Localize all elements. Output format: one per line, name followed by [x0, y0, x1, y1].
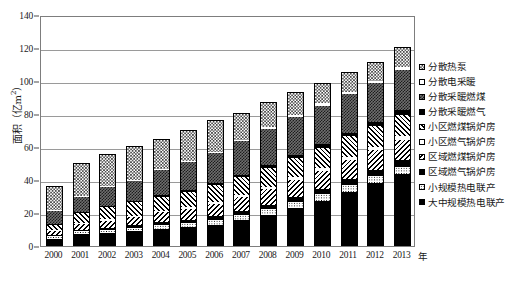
bar-segment-分散采暖燃煤	[341, 94, 358, 132]
bar-segment-区域燃煤锅炉房	[99, 221, 116, 228]
legend-swatch-icon	[419, 154, 425, 160]
bar-segment-大中规模热电联产	[153, 229, 170, 246]
y-axis-tick-mark	[34, 148, 39, 149]
bar-segment-分散热泵	[233, 113, 250, 140]
legend-label: 分散热泵	[428, 62, 466, 72]
legend-item-2: 分散采暖燃煤	[419, 89, 517, 104]
bar-segment-区域燃气锅炉房	[46, 235, 63, 236]
bar-segment-小区燃气锅炉房	[180, 207, 197, 209]
bar-segment-分散电采暖	[99, 186, 116, 187]
bar-segment-分散采暖燃煤	[207, 153, 224, 183]
bar-segment-大中规模热电联产	[287, 208, 304, 246]
legend-item-6: 区域燃煤锅炉房	[419, 150, 517, 165]
bar-segment-区域燃煤锅炉房	[180, 209, 197, 220]
bar-segment-分散采暖燃气	[314, 144, 331, 147]
bar-segment-区域燃气锅炉房	[367, 170, 384, 176]
bar-segment-小规模热电联产	[207, 220, 224, 225]
bar-segment-大中规模热电联产	[126, 231, 143, 246]
bar-segment-分散采暖燃气	[46, 224, 63, 225]
bar-segment-区域燃煤锅炉房	[153, 212, 170, 222]
y-axis-title-main: 面积（亿m	[12, 95, 23, 144]
legend-item-5: 小区燃气锅炉房	[419, 134, 517, 149]
x-axis-unit-label: 年	[418, 249, 428, 263]
bar-2002	[99, 154, 116, 246]
bar-segment-分散采暖燃气	[367, 122, 384, 126]
bar-segment-分散热泵	[367, 62, 384, 80]
bar-2003	[126, 146, 143, 246]
bar-segment-分散热泵	[207, 120, 224, 152]
bar-segment-区域燃气锅炉房	[126, 225, 143, 227]
bar-2000	[46, 186, 63, 246]
bar-segment-小规模热电联产	[126, 228, 143, 232]
bar-segment-区域燃气锅炉房	[394, 160, 411, 167]
bar-segment-大中规模热电联产	[99, 233, 116, 246]
bar-segment-分散采暖燃煤	[99, 187, 116, 206]
bar-segment-小区燃气锅炉房	[207, 202, 224, 204]
bar-2006	[207, 120, 224, 246]
legend-label: 区域燃煤锅炉房	[428, 152, 495, 162]
bar-segment-区域燃气锅炉房	[153, 222, 170, 225]
bar-segment-区域燃气锅炉房	[73, 230, 90, 232]
x-axis-tick-label: 2009	[286, 250, 304, 260]
bar-segment-小区燃气锅炉房	[99, 219, 116, 220]
bar-segment-分散采暖燃气	[99, 206, 116, 207]
bar-segment-区域燃煤锅炉房	[341, 160, 358, 179]
bar-segment-分散电采暖	[126, 180, 143, 181]
legend-swatch-icon	[419, 184, 425, 190]
bar-segment-分散采暖燃气	[287, 155, 304, 158]
bar-segment-分散电采暖	[287, 115, 304, 117]
bar-segment-小规模热电联产	[73, 231, 90, 234]
bar-segment-小区燃煤锅炉房	[233, 177, 250, 195]
legend-swatch-icon	[419, 169, 425, 175]
bar-segment-大中规模热电联产	[180, 227, 197, 246]
bar-segment-小区燃煤锅炉房	[153, 197, 170, 211]
bar-segment-大中规模热电联产	[394, 174, 411, 246]
bar-2010	[314, 83, 331, 246]
bar-segment-区域燃气锅炉房	[207, 216, 224, 219]
bar-segment-分散采暖燃气	[180, 190, 197, 192]
x-axis-tick-label: 2007	[232, 250, 250, 260]
legend-swatch-icon	[419, 199, 425, 205]
bar-segment-分散电采暖	[394, 67, 411, 70]
bar-segment-小区燃气锅炉房	[314, 168, 331, 171]
bar-segment-分散采暖燃煤	[287, 117, 304, 154]
bar-segment-小区燃煤锅炉房	[260, 168, 277, 187]
bar-segment-小规模热电联产	[287, 202, 304, 208]
stacked-bar-chart: 020406080100120140 面积（亿m2） 2000200120022…	[0, 0, 517, 293]
x-axis: 2000200120022003200420052006200720082009…	[40, 250, 415, 266]
x-axis-tick-label: 2005	[178, 250, 196, 260]
y-axis-tick-mark	[34, 49, 39, 50]
bar-2009	[287, 92, 304, 246]
y-axis-title: 面积（亿m2）	[9, 70, 24, 156]
y-axis-tick-label: 120	[19, 44, 33, 54]
x-axis-tick-label: 2008	[259, 250, 277, 260]
bar-segment-区域燃煤锅炉房	[207, 204, 224, 216]
bar-segment-分散电采暖	[46, 210, 63, 211]
bar-segment-大中规模热电联产	[341, 192, 358, 246]
bar-2004	[153, 139, 170, 246]
bar-segment-大中规模热电联产	[207, 225, 224, 246]
bar-segment-分散采暖燃煤	[260, 129, 277, 165]
bar-segment-分散电采暖	[341, 92, 358, 95]
bar-segment-分散采暖燃煤	[153, 170, 170, 195]
bar-segment-分散热泵	[153, 139, 170, 170]
legend-label: 分散采暖燃煤	[428, 92, 486, 102]
bar-segment-小规模热电联产	[367, 176, 384, 183]
legend-label: 分散采暖燃气	[428, 107, 486, 117]
bar-2008	[260, 102, 277, 246]
bar-segment-分散采暖燃气	[260, 165, 277, 168]
bar-segment-区域燃煤锅炉房	[260, 189, 277, 205]
bar-segment-区域燃气锅炉房	[314, 189, 331, 194]
legend-label: 区域燃气锅炉房	[428, 167, 495, 177]
bar-segment-分散热泵	[314, 83, 331, 104]
bar-segment-小区燃气锅炉房	[260, 187, 277, 189]
bar-segment-分散采暖燃气	[233, 175, 250, 177]
x-axis-tick-label: 2004	[152, 250, 170, 260]
bar-segment-小区燃煤锅炉房	[126, 202, 143, 215]
bar-segment-小规模热电联产	[153, 225, 170, 229]
bar-segment-大中规模热电联产	[46, 239, 63, 246]
y-axis-tick-mark	[34, 247, 39, 248]
bar-segment-区域燃气锅炉房	[233, 211, 250, 215]
bar-segment-分散电采暖	[207, 152, 224, 153]
bar-segment-小区燃煤锅炉房	[180, 192, 197, 208]
